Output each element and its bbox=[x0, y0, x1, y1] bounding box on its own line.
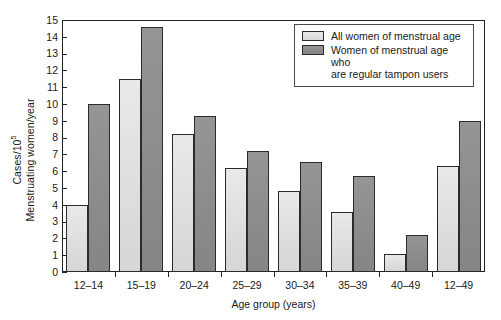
x-axis-tick-mark bbox=[274, 272, 275, 277]
y-axis-tick-label: 4 bbox=[52, 199, 62, 210]
bar bbox=[66, 205, 88, 272]
legend-item-all-women: All women of menstrual age bbox=[302, 30, 467, 42]
y-axis-title: Cases/105 Menstruating women/year bbox=[0, 0, 46, 320]
bar bbox=[437, 166, 459, 272]
y-axis-tick-label: 8 bbox=[52, 132, 62, 143]
y-axis-tick-label: 13 bbox=[46, 48, 62, 59]
x-axis-tick-mark bbox=[168, 272, 169, 277]
bar-group bbox=[119, 20, 163, 272]
bar bbox=[406, 235, 428, 272]
bar bbox=[172, 134, 194, 272]
legend-swatch-light-icon bbox=[302, 31, 324, 41]
legend-label-all-women: All women of menstrual age bbox=[331, 30, 461, 42]
bar-group bbox=[66, 20, 110, 272]
bar bbox=[247, 151, 269, 272]
legend-item-tampon-users: Women of menstrual age who are regular t… bbox=[302, 44, 467, 80]
y-axis-tick-label: 2 bbox=[52, 233, 62, 244]
x-axis-tick-mark bbox=[115, 272, 116, 277]
bar bbox=[384, 254, 406, 272]
bar-group bbox=[172, 20, 216, 272]
legend-label-tampon-users-line1: Women of menstrual age who bbox=[331, 44, 448, 68]
x-axis-tick-label: 12–49 bbox=[419, 280, 499, 291]
y-axis-title-denominator: Menstruating women/year bbox=[24, 96, 37, 223]
y-axis-tick-label: 3 bbox=[52, 216, 62, 227]
y-axis-title-numerator-text: Cases/10 bbox=[10, 139, 22, 184]
y-axis-tick-label: 7 bbox=[52, 149, 62, 160]
x-axis-tick-mark bbox=[221, 272, 222, 277]
bar bbox=[353, 176, 375, 272]
y-axis-title-exponent: 5 bbox=[10, 135, 17, 139]
y-axis-title-numerator: Cases/105 bbox=[10, 133, 24, 186]
x-axis-tick-mark bbox=[326, 272, 327, 277]
bar-chart: Cases/105 Menstruating women/year 012345… bbox=[0, 0, 501, 320]
bar bbox=[300, 162, 322, 272]
bar bbox=[331, 212, 353, 272]
bar bbox=[194, 116, 216, 272]
bar bbox=[278, 191, 300, 272]
y-axis-tick-label: 12 bbox=[46, 65, 62, 76]
y-axis-tick-mark bbox=[62, 272, 67, 273]
bar bbox=[119, 79, 141, 272]
y-axis-tick-label: 9 bbox=[52, 115, 62, 126]
y-axis-tick-label: 6 bbox=[52, 165, 62, 176]
bar bbox=[141, 27, 163, 272]
y-axis-tick-label: 14 bbox=[46, 31, 62, 42]
bar bbox=[88, 104, 110, 272]
x-axis-tick-mark bbox=[379, 272, 380, 277]
bar bbox=[459, 121, 481, 272]
legend: All women of menstrual age Women of mens… bbox=[294, 24, 474, 87]
legend-label-tampon-users-line2: are regular tampon users bbox=[331, 68, 448, 80]
x-axis-title: Age group (years) bbox=[62, 299, 485, 310]
y-axis-tick-label: 1 bbox=[52, 249, 62, 260]
y-axis-tick-label: 10 bbox=[46, 98, 62, 109]
y-axis-tick-label: 0 bbox=[52, 266, 62, 277]
legend-swatch-dark-icon bbox=[302, 45, 324, 55]
x-axis-tick-mark bbox=[432, 272, 433, 277]
bar bbox=[225, 168, 247, 272]
y-axis-tick-label: 15 bbox=[46, 14, 62, 25]
legend-label-tampon-users: Women of menstrual age who are regular t… bbox=[331, 44, 467, 80]
y-axis-tick-label: 11 bbox=[47, 81, 62, 92]
bar-group bbox=[225, 20, 269, 272]
y-axis-tick-label: 5 bbox=[52, 182, 62, 193]
